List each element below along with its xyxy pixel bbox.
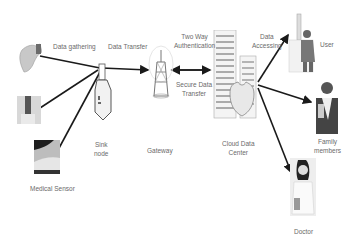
arm-sensor-image [17, 96, 41, 124]
data-gathering-label: Data gathering [53, 42, 96, 51]
wrist-sensor-image [16, 42, 42, 76]
medical-sensor-image [34, 140, 60, 174]
gateway-label: Gateway [147, 146, 173, 155]
user-label: User [320, 40, 334, 49]
gateway-tower-icon [148, 40, 174, 102]
family-members-label: Family members [314, 137, 341, 155]
family-member-image [314, 80, 340, 136]
doctor-image [290, 158, 316, 216]
user-image [287, 12, 317, 74]
sink-node-icon [93, 62, 113, 122]
two-way-authentication-label: Two Way Authentication [174, 32, 215, 50]
secure-data-transfer-label: Secure Data Transfer [176, 80, 212, 98]
doctor-label: Doctor [294, 227, 313, 236]
sink-node-label: Sink node [94, 140, 108, 158]
medical-sensor-label: Medical Sensor [30, 184, 75, 193]
data-transfer-label: Data Transfer [108, 42, 147, 51]
data-accessing-label: Data Accessing [252, 32, 282, 50]
cloud-data-center-label: Cloud Data Center [222, 139, 255, 157]
